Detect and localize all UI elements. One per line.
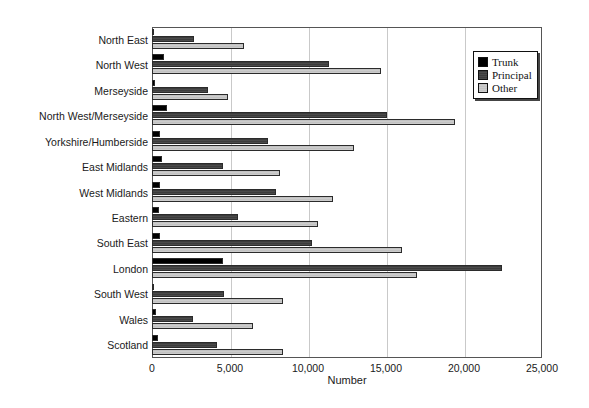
bar-group: [152, 307, 542, 332]
y-axis-label: Scotland: [0, 339, 148, 351]
bar-group: [152, 180, 542, 205]
bar-trunk: [152, 29, 154, 35]
x-tick-label: 25,000: [526, 361, 558, 375]
bar-principal: [152, 189, 276, 195]
bar-other: [152, 196, 333, 202]
bar-other: [152, 119, 455, 125]
legend-label: Trunk: [492, 56, 519, 68]
legend-item-other: Other: [478, 81, 532, 94]
y-axis-label: North West/Merseyside: [0, 110, 148, 122]
bar-chart: North EastNorth WestMerseysideNorth West…: [0, 0, 589, 408]
y-axis-labels: North EastNorth WestMerseysideNorth West…: [0, 27, 148, 358]
bar-principal: [152, 87, 208, 93]
bar-trunk: [152, 182, 160, 188]
y-axis-label: Yorkshire/Humberside: [0, 136, 148, 148]
bar-trunk: [152, 105, 167, 111]
bar-other: [152, 170, 280, 176]
y-axis-label: Eastern: [0, 212, 148, 224]
y-axis-label: South East: [0, 237, 148, 249]
x-tick-label: 5,000: [217, 361, 243, 375]
bar-trunk: [152, 54, 164, 60]
bar-other: [152, 323, 253, 329]
bar-other: [152, 247, 402, 253]
bar-other: [152, 298, 283, 304]
bar-group: [152, 129, 542, 154]
bar-trunk: [152, 309, 156, 315]
x-axis-title: Number: [152, 374, 542, 386]
bar-principal: [152, 36, 194, 42]
dark-gray-square-icon: [478, 70, 488, 80]
bar-group: [152, 27, 542, 52]
bar-other: [152, 221, 318, 227]
bar-trunk: [152, 156, 162, 162]
legend-item-trunk: Trunk: [478, 55, 532, 68]
bar-other: [152, 94, 228, 100]
bar-other: [152, 145, 354, 151]
bar-trunk: [152, 335, 158, 341]
bar-principal: [152, 265, 502, 271]
bar-principal: [152, 163, 223, 169]
bar-other: [152, 68, 381, 74]
bar-group: [152, 231, 542, 256]
bar-trunk: [152, 258, 223, 264]
bar-trunk: [152, 207, 159, 213]
black-square-icon: [478, 57, 488, 67]
x-tick-label: 0: [149, 361, 155, 375]
y-axis-label: North West: [0, 59, 148, 71]
y-axis-label: East Midlands: [0, 161, 148, 173]
bar-other: [152, 43, 244, 49]
y-axis-label: South West: [0, 288, 148, 300]
legend-item-principal: Principal: [478, 68, 532, 81]
bar-group: [152, 282, 542, 307]
x-tick-label: 10,000: [292, 361, 324, 375]
y-axis-label: North East: [0, 34, 148, 46]
bar-principal: [152, 342, 217, 348]
bar-trunk: [152, 131, 160, 137]
y-axis-label: West Midlands: [0, 187, 148, 199]
x-tick-label: 15,000: [370, 361, 402, 375]
bar-principal: [152, 291, 224, 297]
bar-trunk: [152, 233, 160, 239]
bar-principal: [152, 240, 312, 246]
bar-group: [152, 333, 542, 358]
bar-principal: [152, 214, 238, 220]
y-axis-label: Wales: [0, 314, 148, 326]
bar-group: [152, 256, 542, 281]
legend-label: Other: [492, 82, 517, 94]
bar-principal: [152, 112, 387, 118]
bar-group: [152, 205, 542, 230]
legend: Trunk Principal Other: [473, 51, 538, 99]
bar-group: [152, 103, 542, 128]
bar-principal: [152, 316, 193, 322]
bar-other: [152, 272, 417, 278]
bar-principal: [152, 138, 268, 144]
x-tick-label: 20,000: [448, 361, 480, 375]
bar-trunk: [152, 284, 154, 290]
bar-trunk: [152, 80, 155, 86]
legend-label: Principal: [492, 69, 532, 81]
light-gray-square-icon: [478, 83, 488, 93]
y-axis-label: London: [0, 263, 148, 275]
bar-group: [152, 154, 542, 179]
bar-principal: [152, 61, 329, 67]
y-axis-label: Merseyside: [0, 85, 148, 97]
bar-other: [152, 349, 283, 355]
